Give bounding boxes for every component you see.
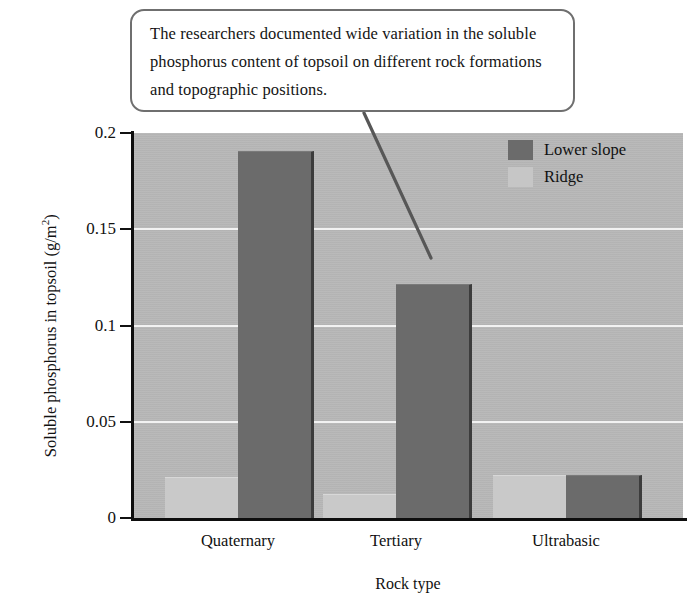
x-axis-category-label-tertiary: Tertiary [306,531,486,551]
chart-plot-area [133,133,683,518]
x-axis-line [131,518,687,521]
bar-ridge-quaternary [165,477,239,518]
y-axis-tick-label: 0.05 [86,413,116,430]
legend-swatch-icon-lower-slope [508,140,533,160]
annotation-callout: The researchers documented wide variatio… [130,9,575,112]
y-axis-tick-label: 0.2 [95,124,116,141]
y-axis-tick [120,132,131,134]
chart-legend: Lower slope Ridge [508,136,626,190]
y-axis-title-close: ) [41,214,60,220]
legend-item-ridge: Ridge [508,163,626,190]
y-axis-tick-label: 0.1 [95,317,116,334]
y-axis-tick [120,517,131,519]
legend-swatch-icon-ridge [508,167,533,187]
bar-ridge-ultrabasic [493,475,567,518]
y-axis-line [131,131,134,520]
bar-lower-slope-tertiary [396,284,472,518]
bar-lower-slope-ultrabasic [566,475,642,518]
y-axis-title: Soluble phosphorus in topsoil (g/m2) [39,136,61,536]
legend-label-ridge: Ridge [544,167,583,187]
y-axis-tick-label: 0.15 [86,220,116,237]
y-axis-title-main: Soluble phosphorus in topsoil (g/m [41,225,60,457]
y-axis-tick [120,228,131,230]
annotation-callout-text: The researchers documented wide variatio… [150,20,560,104]
y-axis-tick [120,421,131,423]
y-axis-tick [120,325,131,327]
x-axis-title: Rock type [133,575,683,593]
bar-ridge-tertiary [323,494,397,518]
legend-item-lower-slope: Lower slope [508,136,626,163]
x-axis-category-label-quaternary: Quaternary [148,531,328,551]
x-axis-category-label-ultrabasic: Ultrabasic [476,531,656,551]
y-axis-title-exponent: 2 [39,220,51,226]
y-axis-tick-label: 0 [108,509,117,526]
bar-lower-slope-quaternary [238,151,314,518]
legend-label-lower-slope: Lower slope [544,140,626,160]
gridline [133,228,683,230]
